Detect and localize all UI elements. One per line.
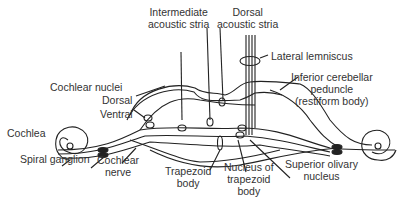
right-spiral-ganglion bbox=[332, 145, 342, 150]
label-dorsal-stria: Dorsal acoustic stria bbox=[217, 6, 278, 30]
label-cochlear-nerve: Cochlear nerve bbox=[97, 154, 139, 178]
dorsal-stria-fibers bbox=[246, 35, 255, 135]
label-spiral-ganglion: Spiral ganglion bbox=[20, 153, 89, 165]
label-cochlear-nuclei: Cochlear nuclei bbox=[50, 81, 122, 93]
label-dorsal: Dorsal bbox=[102, 94, 132, 106]
label-ventral: Ventral bbox=[100, 108, 133, 120]
left-spiral-ganglion bbox=[98, 148, 108, 153]
lateral-lemniscus-ring bbox=[240, 57, 260, 66]
label-cochlea: Cochlea bbox=[7, 127, 46, 139]
label-nucleus-of-trapezoid-body: Nucleus of trapezoid body bbox=[224, 161, 274, 197]
label-trapezoid-body: Trapezoid body bbox=[165, 165, 211, 189]
intermediate-leader bbox=[207, 28, 210, 120]
label-inferior-cerebellar-peduncle: Inferior cerebellar peduncle (restiform … bbox=[291, 71, 373, 107]
label-intermediate-stria: Intermediate acoustic stria bbox=[148, 6, 209, 30]
dorsal-leader bbox=[220, 28, 223, 100]
label-lateral-lemniscus: Lateral lemniscus bbox=[271, 50, 353, 62]
label-superior-olivary-nucleus: Superior olivary nucleus bbox=[285, 158, 358, 182]
right-cochlea-icon bbox=[362, 130, 396, 160]
